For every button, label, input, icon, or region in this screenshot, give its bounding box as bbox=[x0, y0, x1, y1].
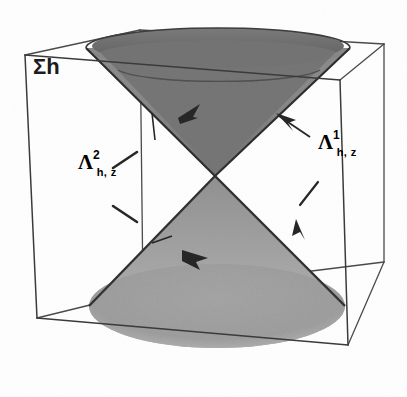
lambda-2-base: Λ bbox=[78, 150, 93, 174]
lambda-2-superscript: 2 bbox=[93, 148, 100, 162]
lambda-2-subscript: h, z bbox=[97, 166, 117, 178]
page-grain-overlay bbox=[0, 0, 407, 397]
lambda-1-base: Λ bbox=[318, 130, 333, 154]
label-lambda-2: Λ2h, z bbox=[78, 150, 120, 175]
lambda-1-superscript: 1 bbox=[333, 128, 340, 142]
label-lambda-1: Λ1h, z bbox=[318, 130, 360, 155]
figure-container: Σh Λ2h, z Λ1h, z bbox=[0, 0, 407, 397]
label-sigma-h: Σh bbox=[33, 56, 60, 78]
cone-in-cube-diagram bbox=[0, 0, 407, 397]
lambda-1-subscript: h, z bbox=[337, 146, 357, 158]
